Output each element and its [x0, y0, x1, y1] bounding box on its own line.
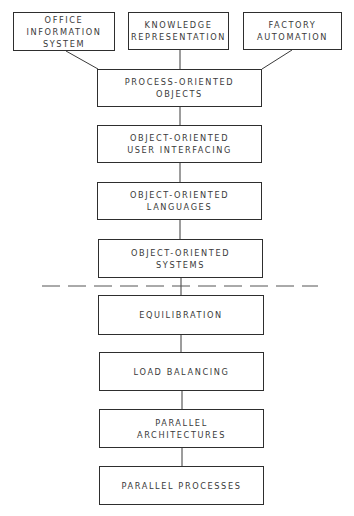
node-label: OBJECT-ORIENTED SYSTEMS: [131, 247, 230, 271]
node-process-oriented-objects: PROCESS-ORIENTED OBJECTS: [97, 69, 262, 107]
node-object-oriented-systems: OBJECT-ORIENTED SYSTEMS: [98, 239, 263, 278]
node-office-information-system: OFFICE INFORMATION SYSTEM: [13, 12, 115, 51]
node-label: PROCESS-ORIENTED OBJECTS: [125, 76, 234, 100]
node-label: OFFICE INFORMATION SYSTEM: [27, 14, 102, 50]
node-label: PARALLEL PROCESSES: [122, 480, 242, 492]
node-label: OBJECT-ORIENTED USER INTERFACING: [127, 132, 232, 156]
node-label: EQUILIBRATION: [139, 309, 223, 321]
edge-office-process: [66, 51, 98, 69]
node-object-oriented-user-interfacing: OBJECT-ORIENTED USER INTERFACING: [97, 125, 262, 163]
node-label: OBJECT-ORIENTED LANGUAGES: [130, 189, 229, 213]
node-parallel-processes: PARALLEL PROCESSES: [99, 466, 264, 505]
edge-factory-process: [262, 50, 292, 69]
node-label: KNOWLEDGE REPRESENTATION: [131, 19, 226, 43]
node-parallel-architectures: PARALLEL ARCHITECTURES: [99, 409, 264, 448]
node-label: LOAD BALANCING: [134, 366, 230, 378]
node-load-balancing: LOAD BALANCING: [99, 352, 264, 391]
node-knowledge-representation: KNOWLEDGE REPRESENTATION: [128, 12, 229, 50]
node-object-oriented-languages: OBJECT-ORIENTED LANGUAGES: [97, 182, 262, 220]
node-factory-automation: FACTORY AUTOMATION: [243, 12, 342, 50]
node-label: PARALLEL ARCHITECTURES: [137, 417, 226, 441]
node-label: FACTORY AUTOMATION: [257, 19, 328, 43]
node-equilibration: EQUILIBRATION: [98, 295, 264, 335]
